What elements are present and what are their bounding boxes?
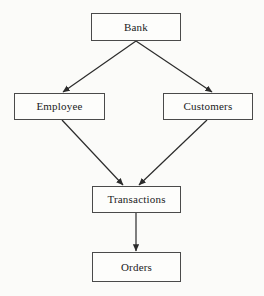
node-transactions-label: Transactions bbox=[107, 194, 165, 205]
edge-bank-to-customers bbox=[136, 41, 212, 92]
node-employee[interactable]: Employee bbox=[14, 93, 105, 120]
edge-customers-to-transactions bbox=[139, 120, 207, 185]
node-bank[interactable]: Bank bbox=[91, 13, 181, 41]
diagram-canvas: Bank Employee Customers Transactions Ord… bbox=[0, 0, 264, 296]
node-transactions[interactable]: Transactions bbox=[92, 186, 181, 213]
node-customers-label: Customers bbox=[184, 101, 233, 112]
edge-bank-to-employee bbox=[63, 41, 136, 92]
node-customers[interactable]: Customers bbox=[163, 93, 253, 120]
node-bank-label: Bank bbox=[124, 22, 148, 33]
node-orders-label: Orders bbox=[121, 262, 152, 273]
edge-employee-to-transactions bbox=[62, 120, 123, 185]
node-employee-label: Employee bbox=[36, 101, 82, 112]
node-orders[interactable]: Orders bbox=[92, 252, 181, 282]
